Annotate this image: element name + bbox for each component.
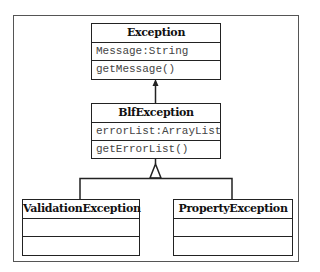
- class-name: BlfException: [92, 104, 220, 123]
- class-attribute: [174, 219, 292, 237]
- class-attribute: errorList:ArrayList: [92, 123, 220, 141]
- class-method: [23, 237, 139, 255]
- class-attribute: Message:String: [92, 43, 220, 61]
- class-method: getMessage(): [92, 61, 220, 79]
- arrowhead-icon: [153, 79, 159, 86]
- class-attribute: [23, 219, 139, 237]
- generalization-triangle-icon: [150, 164, 161, 178]
- class-exception: Exception Message:String getMessage(): [91, 23, 221, 80]
- class-method: [174, 237, 292, 255]
- class-method: getErrorList(): [92, 141, 220, 159]
- class-propertyexception: PropertyException: [173, 199, 293, 256]
- class-validationexception: ValidationException: [22, 199, 140, 256]
- class-name: Exception: [92, 24, 220, 43]
- class-name: PropertyException: [174, 200, 292, 219]
- class-name: ValidationException: [23, 200, 139, 219]
- class-blfexception: BlfException errorList:ArrayList getErro…: [91, 103, 221, 159]
